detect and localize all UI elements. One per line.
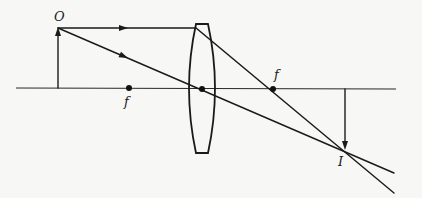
central-ray xyxy=(58,28,394,173)
focal-point-right xyxy=(270,86,276,92)
object-label: O xyxy=(54,9,65,24)
focal-right-label: f xyxy=(273,67,281,82)
image-arrowhead-icon xyxy=(342,141,348,150)
ray-diagram: O f f I xyxy=(0,0,422,198)
parallel-ray xyxy=(58,28,394,193)
focal-point-left xyxy=(126,85,132,91)
optical-axis xyxy=(16,88,396,89)
ray-diagram-canvas: O f f I xyxy=(0,0,422,198)
ray-direction-arrow-icon xyxy=(119,52,129,58)
ray-direction-arrow-icon xyxy=(119,25,128,31)
lens-center-point xyxy=(199,86,205,92)
image-label: I xyxy=(337,154,344,169)
focal-left-label: f xyxy=(123,94,131,109)
